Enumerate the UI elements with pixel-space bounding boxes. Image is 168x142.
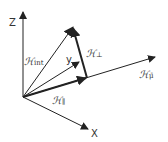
h-parallel-subscript: ∥ [62,98,65,106]
y-axis-label: y [66,55,72,65]
h-int-label: ℋint [24,57,44,67]
h-int-subscript: int [34,59,44,67]
x-axis-label: X [91,129,98,139]
vector-decomposition-diagram: Z y X ℋint ℋ⊥ ℋ∥ ℋμ̄ [0,0,168,142]
y-axis [23,62,79,97]
h-perp-label: ℋ⊥ [86,49,103,59]
h-mu-subscript: μ̄ [149,72,154,80]
h-parallel-symbol: ℋ [52,95,62,106]
z-axis-label: Z [9,18,16,28]
h-perp-subscript: ⊥ [96,51,103,59]
h-mu-label: ℋμ̄ [139,70,154,80]
h-perp-vector [73,28,87,78]
h-perp-symbol: ℋ [86,48,96,59]
h-parallel-label: ℋ∥ [52,96,65,106]
h-mu-symbol: ℋ [139,69,149,80]
h-int-symbol: ℋ [24,56,34,67]
